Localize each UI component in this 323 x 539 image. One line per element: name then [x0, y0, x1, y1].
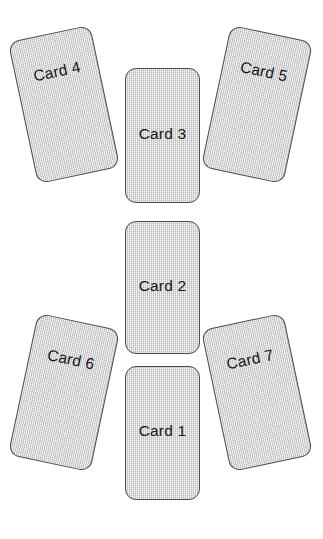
card-6[interactable]: Card 6 [8, 313, 120, 472]
card-6-label: Card 6 [46, 345, 96, 373]
card-spread-canvas: Card 4Card 3Card 5Card 2Card 6Card 1Card… [0, 0, 323, 539]
card-3[interactable]: Card 3 [125, 68, 200, 203]
clipped-header-text [0, 0, 323, 2]
card-2-label: Card 2 [139, 277, 187, 295]
card-4-label: Card 4 [32, 57, 82, 85]
card-1-label: Card 1 [139, 422, 187, 440]
card-2[interactable]: Card 2 [125, 221, 200, 354]
card-3-label: Card 3 [139, 125, 187, 143]
card-5[interactable]: Card 5 [201, 25, 313, 184]
card-7-label: Card 7 [225, 345, 275, 373]
card-4[interactable]: Card 4 [8, 25, 120, 184]
card-5-label: Card 5 [239, 57, 289, 85]
card-1[interactable]: Card 1 [125, 366, 200, 500]
card-7[interactable]: Card 7 [201, 313, 313, 472]
